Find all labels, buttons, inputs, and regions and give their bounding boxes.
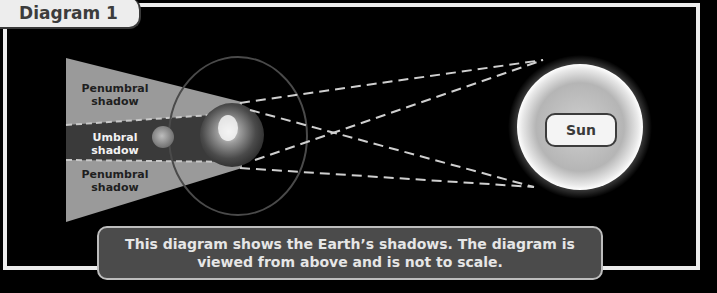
caption-box: This diagram shows the Earth’s shadows. …	[97, 226, 603, 280]
label-line: Penumbral	[70, 168, 160, 181]
sun-label: Sun	[545, 113, 617, 147]
label-line: Umbral	[80, 131, 150, 144]
penumbral-shadow-top-label: Penumbral shadow	[70, 82, 160, 108]
label-line: shadow	[70, 181, 160, 194]
caption-line-1: This diagram shows the Earth’s shadows. …	[125, 235, 575, 253]
label-line: shadow	[70, 95, 160, 108]
caption-line-2: viewed from above and is not to scale.	[197, 253, 503, 271]
penumbral-shadow-bottom-label: Penumbral shadow	[70, 168, 160, 194]
moon	[152, 126, 174, 148]
umbral-shadow-label: Umbral shadow	[80, 131, 150, 157]
label-line: shadow	[80, 144, 150, 157]
diagram-title: Diagram 1	[0, 0, 141, 29]
label-line: Penumbral	[70, 82, 160, 95]
